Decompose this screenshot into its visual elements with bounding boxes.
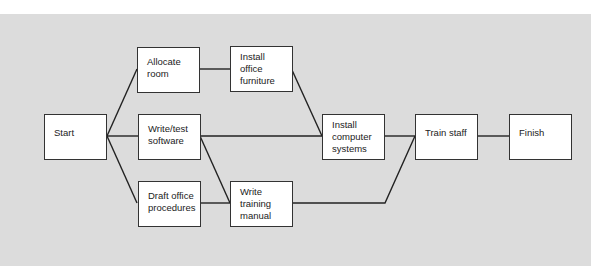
node-label: Train staff <box>425 127 473 139</box>
node-label: computer <box>332 131 380 143</box>
node-label: office <box>240 63 288 75</box>
edge-write-test-software-write-training-manual <box>200 136 230 203</box>
node-write-test-software: Write/test software <box>138 114 201 160</box>
node-label: systems <box>332 143 380 155</box>
node-install-office-furniture: Install office furniture <box>230 46 293 92</box>
node-label: Start <box>54 127 102 139</box>
node-install-computer-systems: Install computer systems <box>322 114 385 160</box>
node-label: Draft office <box>148 190 196 202</box>
node-label: procedures <box>148 202 196 214</box>
node-label: Write <box>240 186 288 198</box>
node-label: room <box>147 68 195 80</box>
node-finish: Finish <box>509 114 572 160</box>
node-label: Install <box>240 51 288 63</box>
node-label: software <box>148 135 196 147</box>
edge-start-allocate-room <box>107 69 137 136</box>
node-label: manual <box>240 210 288 222</box>
node-draft-office-procedures: Draft office procedures <box>138 181 201 227</box>
node-start: Start <box>44 114 107 160</box>
node-label: Install <box>332 119 380 131</box>
node-label: Finish <box>519 127 567 139</box>
node-train-staff: Train staff <box>415 114 478 160</box>
edge-start-draft-office-procedures <box>107 136 137 203</box>
node-label: Write/test <box>148 123 196 135</box>
node-label: furniture <box>240 75 288 87</box>
node-write-training-manual: Write training manual <box>230 181 293 227</box>
node-label: training <box>240 198 288 210</box>
node-allocate-room: Allocate room <box>137 47 200 93</box>
node-label: Allocate <box>147 56 195 68</box>
edge-install-office-furniture-install-computer-systems <box>292 70 322 136</box>
